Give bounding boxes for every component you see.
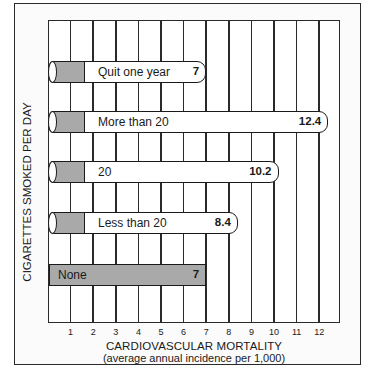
bar-cap-end (48, 61, 57, 83)
y-axis-label: CIGARETTES SMOKED PER DAY (21, 102, 33, 281)
gridline-11 (296, 20, 298, 323)
bar-more-than-20: More than 2012.4 (49, 111, 328, 133)
x-tick-label: 7 (196, 327, 216, 337)
bar-category-label: Quit one year (98, 65, 170, 79)
x-tick-label: 9 (241, 327, 261, 337)
bar-quit-one-year: Quit one year7 (49, 61, 206, 83)
bar-category-label: Less than 20 (98, 216, 167, 230)
bar-cap-end (48, 111, 57, 133)
bar-value-label: 7 (193, 268, 199, 280)
x-tick-label: 5 (151, 327, 171, 337)
bar-less-than-20: Less than 208.4 (49, 212, 238, 234)
x-tick-label: 11 (287, 327, 307, 337)
bar-value-label: 8.4 (215, 216, 231, 228)
x-tick-label: 10 (264, 327, 284, 337)
bar-cap-end (48, 161, 57, 183)
bar-value-label: 12.4 (299, 115, 321, 127)
bar-category-label: None (58, 268, 87, 282)
bar-value-label: 10.2 (249, 165, 271, 177)
bar-category-label: More than 20 (98, 115, 169, 129)
x-tick-label: 6 (174, 327, 194, 337)
bar-value-label: 7 (193, 65, 199, 77)
x-tick-label: 4 (128, 327, 148, 337)
x-tick-label: 8 (219, 327, 239, 337)
x-tick-label: 3 (106, 327, 126, 337)
gridline-12 (318, 20, 320, 323)
bar-cap-end (48, 212, 57, 234)
bar-20: 2010.2 (49, 161, 279, 183)
x-tick-label: 2 (83, 327, 103, 337)
x-tick-label: 1 (61, 327, 81, 337)
bar-none: None7 (49, 264, 206, 286)
x-tick-label: 12 (309, 327, 329, 337)
bar-category-label: 20 (98, 165, 111, 179)
x-axis-sublabel: (average annual incidence per 1,000) (48, 352, 340, 364)
x-axis-label: CARDIOVASCULAR MORTALITY (48, 340, 340, 352)
